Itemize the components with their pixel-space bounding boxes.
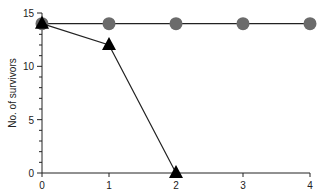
series-triangles [35, 16, 183, 178]
triangle-marker [169, 165, 183, 178]
x-tick-label: 4 [307, 180, 313, 191]
survivors-chart: 01234051015 No. of survivors [0, 0, 322, 195]
y-tick-label: 10 [23, 61, 35, 72]
series-layer [35, 16, 317, 178]
circle-marker [237, 17, 250, 30]
series-circles [36, 17, 317, 30]
x-tick-label: 0 [39, 180, 45, 191]
y-tick-label: 0 [28, 168, 34, 179]
circle-marker [170, 17, 183, 30]
y-tick-label: 15 [23, 8, 35, 19]
y-axis-label: No. of survivors [7, 58, 18, 127]
x-tick-label: 2 [173, 180, 179, 191]
circle-marker [304, 17, 317, 30]
y-tick-label: 5 [28, 115, 34, 126]
axes: 01234051015 [23, 8, 313, 191]
x-tick-label: 1 [106, 180, 112, 191]
x-tick-label: 3 [240, 180, 246, 191]
circle-marker [103, 17, 116, 30]
